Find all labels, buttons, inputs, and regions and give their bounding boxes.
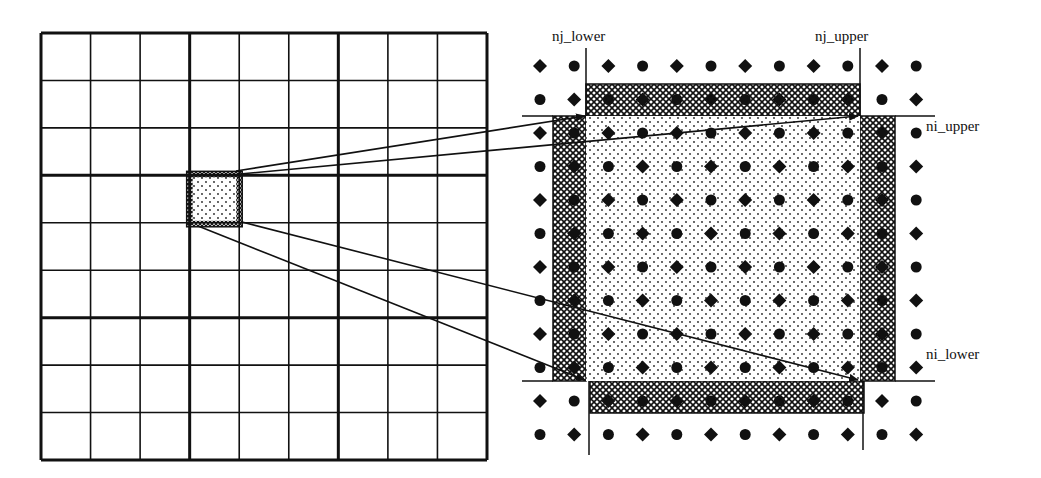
diamond-marker bbox=[875, 394, 889, 408]
circle-marker bbox=[671, 161, 682, 172]
diamond-marker bbox=[909, 93, 923, 107]
circle-marker bbox=[774, 329, 785, 340]
circle-marker bbox=[740, 94, 751, 105]
circle-marker bbox=[740, 161, 751, 172]
inner-region bbox=[586, 116, 860, 381]
diamond-marker bbox=[601, 59, 615, 73]
circle-marker bbox=[842, 262, 853, 273]
circle-marker bbox=[603, 161, 614, 172]
circle-marker bbox=[637, 61, 648, 72]
circle-marker bbox=[535, 161, 546, 172]
circle-marker bbox=[671, 228, 682, 239]
circle-marker bbox=[569, 195, 580, 206]
diamond-marker bbox=[807, 59, 821, 73]
diamond-marker bbox=[636, 428, 650, 442]
circle-marker bbox=[774, 128, 785, 139]
halo-strip-bottom bbox=[590, 381, 864, 413]
circle-marker bbox=[671, 295, 682, 306]
circle-marker bbox=[603, 228, 614, 239]
label-nj-lower: nj_lower bbox=[552, 28, 605, 45]
label-nj-upper: nj_upper bbox=[815, 28, 868, 45]
highlighted-subdomain bbox=[193, 177, 237, 220]
circle-marker bbox=[808, 429, 819, 440]
circle-marker bbox=[740, 295, 751, 306]
circle-marker bbox=[637, 329, 648, 340]
circle-marker bbox=[774, 262, 785, 273]
circle-marker bbox=[842, 396, 853, 407]
diamond-marker bbox=[875, 59, 889, 73]
circle-marker bbox=[842, 329, 853, 340]
circle-marker bbox=[706, 262, 717, 273]
circle-marker bbox=[877, 94, 888, 105]
circle-marker bbox=[842, 61, 853, 72]
circle-marker bbox=[911, 195, 922, 206]
diamond-marker bbox=[909, 160, 923, 174]
circle-marker bbox=[603, 362, 614, 373]
diamond-marker bbox=[533, 126, 547, 140]
diamond-marker bbox=[567, 93, 581, 107]
circle-marker bbox=[569, 128, 580, 139]
circle-marker bbox=[671, 94, 682, 105]
circle-marker bbox=[911, 329, 922, 340]
circle-marker bbox=[603, 429, 614, 440]
diamond-marker bbox=[772, 428, 786, 442]
diamond-marker bbox=[533, 327, 547, 341]
circle-marker bbox=[740, 429, 751, 440]
diamond-marker bbox=[841, 428, 855, 442]
halo-strip-right bbox=[860, 116, 895, 381]
diamond-marker bbox=[704, 428, 718, 442]
circle-marker bbox=[877, 161, 888, 172]
domain-decomposition-diagram bbox=[0, 0, 1041, 478]
circle-marker bbox=[671, 362, 682, 373]
diamond-marker bbox=[738, 59, 752, 73]
circle-marker bbox=[535, 94, 546, 105]
circle-marker bbox=[808, 94, 819, 105]
circle-marker bbox=[808, 295, 819, 306]
circle-marker bbox=[911, 396, 922, 407]
circle-marker bbox=[740, 362, 751, 373]
mapping-arrow bbox=[198, 226, 585, 380]
circle-marker bbox=[911, 128, 922, 139]
circle-marker bbox=[774, 396, 785, 407]
diamond-marker bbox=[670, 59, 684, 73]
circle-marker bbox=[535, 429, 546, 440]
circle-marker bbox=[808, 161, 819, 172]
circle-marker bbox=[842, 195, 853, 206]
label-ni-upper: ni_upper bbox=[926, 118, 979, 135]
diamond-marker bbox=[533, 193, 547, 207]
circle-marker bbox=[603, 295, 614, 306]
diamond-marker bbox=[909, 227, 923, 241]
circle-marker bbox=[637, 195, 648, 206]
diamond-marker bbox=[909, 428, 923, 442]
circle-marker bbox=[706, 61, 717, 72]
circle-marker bbox=[877, 295, 888, 306]
circle-marker bbox=[603, 94, 614, 105]
label-ni-lower: ni_lower bbox=[926, 346, 979, 363]
circle-marker bbox=[671, 429, 682, 440]
diamond-marker bbox=[533, 394, 547, 408]
diamond-marker bbox=[567, 428, 581, 442]
circle-marker bbox=[569, 396, 580, 407]
circle-marker bbox=[569, 262, 580, 273]
circle-marker bbox=[740, 228, 751, 239]
circle-marker bbox=[637, 262, 648, 273]
circle-marker bbox=[706, 396, 717, 407]
circle-marker bbox=[774, 195, 785, 206]
global-grid bbox=[41, 33, 487, 460]
circle-marker bbox=[637, 396, 648, 407]
circle-marker bbox=[808, 228, 819, 239]
circle-marker bbox=[774, 61, 785, 72]
subdomain-detail bbox=[522, 48, 935, 455]
circle-marker bbox=[535, 228, 546, 239]
circle-marker bbox=[569, 61, 580, 72]
circle-marker bbox=[706, 195, 717, 206]
circle-marker bbox=[842, 128, 853, 139]
circle-marker bbox=[706, 329, 717, 340]
halo-strip-left bbox=[553, 116, 586, 381]
circle-marker bbox=[877, 429, 888, 440]
diamond-marker bbox=[909, 361, 923, 375]
diamond-marker bbox=[533, 260, 547, 274]
circle-marker bbox=[569, 329, 580, 340]
circle-marker bbox=[877, 362, 888, 373]
diamond-marker bbox=[909, 294, 923, 308]
